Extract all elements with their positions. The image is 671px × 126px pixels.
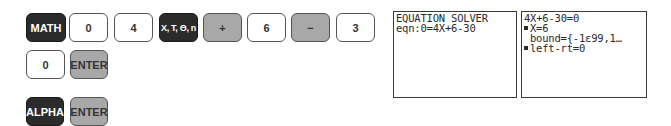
math-key-label: MATH [31,22,62,34]
enter-key-2[interactable]: ENTER [70,97,108,126]
equation-line: eqn:0=4X+6-30 [396,23,514,33]
left-rt-row: left-rt=0 [524,43,644,53]
three-key[interactable]: 3 [336,13,375,42]
math-key[interactable]: MATH [26,13,66,42]
left-rt-value: left-rt=0 [530,42,585,54]
alpha-key-label: ALPHA [26,106,64,118]
zero-key-2[interactable]: 0 [26,50,65,79]
bullet-icon [524,26,528,30]
variable-key-label: X, T, Θ, n [161,23,196,33]
six-key-label: 6 [263,22,269,34]
variable-key[interactable]: X, T, Θ, n [159,13,198,42]
six-key[interactable]: 6 [247,13,286,42]
solver-entry-screen: EQUATION SOLVER eqn:0=4X+6-30 [393,11,517,98]
enter-key[interactable]: ENTER [70,50,108,79]
plus-key[interactable]: + [203,13,242,42]
bullet-icon [524,46,528,50]
enter-key-label: ENTER [70,59,107,71]
four-key[interactable]: 4 [114,13,153,42]
enter-key-2-label: ENTER [70,106,107,118]
solver-result-screen: 4X+6-30=0 X=6 bound={-1ε99,1… left-rt=0 [521,11,647,98]
alpha-key[interactable]: ALPHA [26,97,64,126]
minus-key[interactable]: − [291,13,330,42]
minus-key-label: − [307,22,313,34]
four-key-label: 4 [130,22,136,34]
zero-key-2-label: 0 [42,59,48,71]
zero-key-label: 0 [85,22,91,34]
plus-key-label: + [219,22,225,34]
zero-key[interactable]: 0 [69,13,108,42]
three-key-label: 3 [352,22,358,34]
